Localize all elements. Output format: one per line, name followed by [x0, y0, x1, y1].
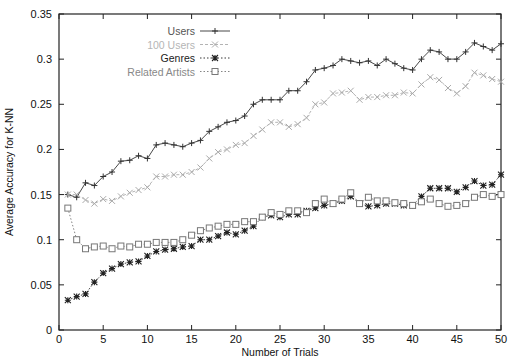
y-tick-label: 0.2 [37, 143, 52, 155]
x-axis-title: Number of Trials [241, 346, 318, 358]
y-tick-label: 0.25 [31, 98, 52, 110]
x-tick-label: 35 [362, 333, 374, 345]
x-tick-label: 20 [230, 333, 242, 345]
x-tick-label: 45 [451, 333, 463, 345]
x-tick-label: 5 [100, 333, 106, 345]
legend-label: 100 Users [147, 39, 195, 51]
legend-label: Related Artists [127, 66, 195, 78]
legend: Users100 UsersGenresRelated Artists [127, 25, 230, 78]
series-layer [65, 40, 504, 303]
x-tick-label: 15 [185, 333, 197, 345]
series-100-users [65, 70, 504, 207]
x-tick-label: 40 [406, 333, 418, 345]
y-tick-label: 0.35 [31, 8, 52, 20]
y-axis-title: Average Accuracy for K-NN [3, 108, 15, 236]
y-tick-label: 0.1 [37, 234, 52, 246]
y-tick-label: 0.15 [31, 189, 52, 201]
series-related-artists [65, 190, 504, 252]
plot-frame [59, 14, 501, 330]
y-tick-label: 0.05 [31, 279, 52, 291]
line-chart: 0510152025303540455000.050.10.150.20.250… [0, 0, 515, 361]
x-tick-label: 0 [56, 333, 62, 345]
legend-label: Genres [161, 52, 195, 64]
legend-item: 100 Users [147, 39, 230, 51]
y-tick-label: 0 [46, 324, 52, 336]
legend-label: Users [168, 25, 195, 37]
legend-item: Genres [161, 52, 230, 64]
x-tick-label: 50 [495, 333, 507, 345]
series-users [65, 40, 504, 200]
x-tick-label: 10 [141, 333, 153, 345]
legend-item: Users [168, 25, 230, 37]
legend-item: Related Artists [127, 66, 230, 78]
x-tick-label: 25 [274, 333, 286, 345]
x-tick-label: 30 [318, 333, 330, 345]
y-tick-label: 0.3 [37, 53, 52, 65]
